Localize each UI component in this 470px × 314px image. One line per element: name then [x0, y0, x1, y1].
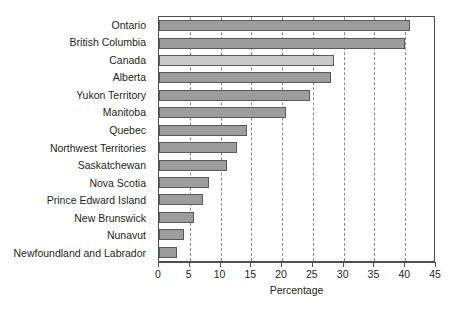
x-axis-tick-label: 15: [244, 269, 256, 280]
category-label: Nunavut: [0, 227, 152, 245]
bar: [159, 107, 286, 118]
bar: [159, 125, 247, 136]
category-label: Alberta: [0, 69, 152, 87]
bar: [159, 177, 209, 188]
bar-row: [159, 139, 434, 156]
x-axis-tick: [404, 262, 405, 267]
bar-row: [159, 191, 434, 208]
x-axis-tick-label: 5: [186, 269, 192, 280]
bar: [159, 90, 310, 101]
bar: [159, 72, 331, 83]
category-label: Canada: [0, 51, 152, 69]
x-axis-tick: [343, 262, 344, 267]
category-label: Quebec: [0, 121, 152, 139]
category-label: Northwest Territories: [0, 139, 152, 157]
bar-row: [159, 156, 434, 173]
category-label: Newfoundland and Labrador: [0, 245, 152, 263]
bar-row: [159, 174, 434, 191]
category-label: Ontario: [0, 16, 152, 34]
bar-row: [159, 87, 434, 104]
bar-row: [159, 34, 434, 51]
category-axis-labels: OntarioBritish ColumbiaCanadaAlbertaYuko…: [0, 16, 152, 262]
x-axis-line: [158, 262, 435, 263]
category-label: New Brunswick: [0, 209, 152, 227]
bar-row: [159, 122, 434, 139]
x-axis-tick: [373, 262, 374, 267]
bar-row: [159, 209, 434, 226]
bar: [159, 194, 203, 205]
x-axis-tick-label: 30: [337, 269, 349, 280]
x-axis-tick-label: 35: [368, 269, 380, 280]
bar-row: [159, 243, 434, 260]
x-axis-tick: [250, 262, 251, 267]
bar-row: [159, 104, 434, 121]
bar: [159, 38, 405, 49]
bar: [159, 160, 227, 171]
x-axis-tick-label: 45: [429, 269, 441, 280]
x-axis-tick: [435, 262, 436, 267]
bar-row: [159, 17, 434, 34]
bar-row: [159, 52, 434, 69]
x-axis-tick-label: 10: [214, 269, 226, 280]
x-axis-tick: [281, 262, 282, 267]
category-label: Prince Edward Island: [0, 192, 152, 210]
bar: [159, 142, 237, 153]
x-axis-tick-label: 0: [155, 269, 161, 280]
bar-row: [159, 69, 434, 86]
x-axis-tick: [158, 262, 159, 267]
category-label: Nova Scotia: [0, 174, 152, 192]
category-label: Manitoba: [0, 104, 152, 122]
x-axis-tick: [189, 262, 190, 267]
bar: [159, 229, 184, 240]
bar: [159, 55, 334, 66]
bar: [159, 212, 194, 223]
category-label: Yukon Territory: [0, 86, 152, 104]
bar: [159, 20, 410, 31]
bar-row: [159, 226, 434, 243]
bar: [159, 247, 177, 258]
x-axis-tick-label: 40: [398, 269, 410, 280]
category-label: British Columbia: [0, 34, 152, 52]
plot-area: [158, 16, 435, 262]
x-axis-tick-label: 20: [275, 269, 287, 280]
x-axis-title: Percentage: [158, 285, 435, 296]
bar-chart: OntarioBritish ColumbiaCanadaAlbertaYuko…: [0, 0, 470, 314]
x-axis-tick: [312, 262, 313, 267]
x-axis-tick-label: 25: [306, 269, 318, 280]
x-axis-tick: [220, 262, 221, 267]
category-label: Saskatchewan: [0, 157, 152, 175]
bars-layer: [159, 17, 434, 261]
